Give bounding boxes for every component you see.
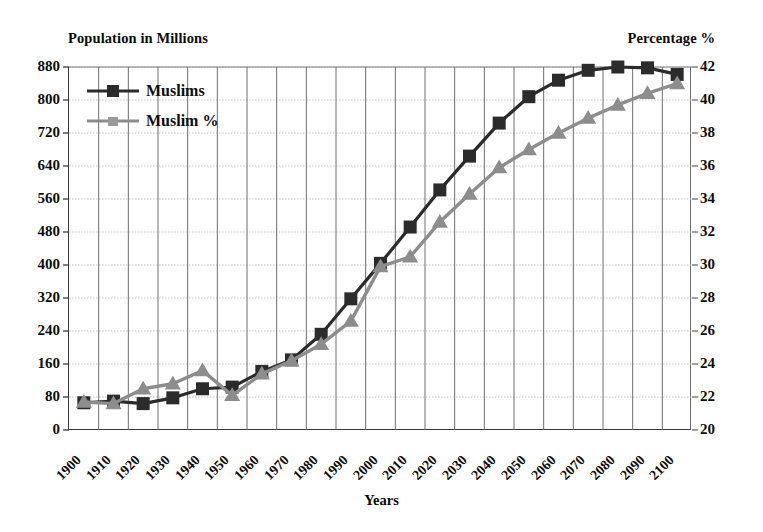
left-axis-tick-label: 480 [14, 224, 60, 239]
data-point-square [137, 397, 150, 410]
x-axis-tick-label: 2040 [468, 452, 499, 483]
left-axis-title: Population in Millions [68, 30, 208, 47]
x-axis-tick-label: 2010 [379, 452, 410, 483]
left-axis-tick-label: 640 [14, 158, 60, 173]
x-axis-tick-label: 2020 [409, 452, 440, 483]
data-point-square [463, 150, 476, 163]
x-axis-tick-label: 1920 [112, 452, 143, 483]
x-axis-tick-label: 1940 [172, 452, 203, 483]
data-point-square [196, 382, 209, 395]
legend-label-muslim-percent: Muslim % [146, 112, 218, 130]
right-axis-tick-label: 32 [700, 224, 746, 239]
right-axis-tick-label: 26 [700, 323, 746, 338]
data-point-square [166, 391, 179, 404]
chart-legend: Muslims Muslim % [86, 76, 266, 136]
x-axis-tick-label: 2070 [557, 452, 588, 483]
legend-marker-square-icon [86, 83, 140, 99]
data-point-square [344, 292, 357, 305]
data-point-square [582, 64, 595, 77]
right-axis-title: Percentage % [628, 30, 716, 47]
right-axis-tick-label: 40 [700, 92, 746, 107]
left-axis-tick-label: 800 [14, 92, 60, 107]
left-axis-tick-label: 720 [14, 125, 60, 140]
left-axis-tick-label: 160 [14, 356, 60, 371]
data-point-triangle [343, 313, 359, 327]
left-axis-tick-labels: 080160240320400480560640720800880 [10, 67, 60, 430]
x-axis-tick-label: 1990 [320, 452, 351, 483]
x-axis-tick-label: 1950 [201, 452, 232, 483]
right-axis-tick-labels: 202224262830323436384042 [700, 67, 752, 430]
x-axis-tick-label: 1910 [83, 452, 114, 483]
right-axis-tick-label: 42 [700, 59, 746, 74]
data-point-square [522, 90, 535, 103]
x-axis-tick-label: 2060 [528, 452, 559, 483]
right-axis-tick-label: 24 [700, 356, 746, 371]
x-axis-tick-label: 2090 [617, 452, 648, 483]
legend-item-muslims: Muslims [86, 76, 266, 106]
left-axis-tick-label: 80 [14, 389, 60, 404]
data-point-triangle [194, 363, 210, 377]
left-axis-tick-label: 880 [14, 59, 60, 74]
x-axis-tick-label: 1980 [290, 452, 321, 483]
right-axis-tick-label: 34 [700, 191, 746, 206]
x-axis-tick-label: 1900 [53, 452, 84, 483]
legend-item-muslim-percent: Muslim % [86, 106, 266, 136]
data-point-triangle [491, 160, 507, 174]
x-axis-tick-label: 1960 [231, 452, 262, 483]
left-axis-tick-label: 560 [14, 191, 60, 206]
right-axis-tick-label: 30 [700, 257, 746, 272]
x-axis-tick-label: 2000 [350, 452, 381, 483]
x-axis-tick-label: 2080 [587, 452, 618, 483]
data-point-square [611, 61, 624, 74]
data-point-square [552, 74, 565, 87]
data-point-square [493, 117, 506, 130]
x-axis-tick-label: 2050 [498, 452, 529, 483]
x-axis-tick-label: 2100 [646, 452, 677, 483]
left-axis-tick-label: 0 [14, 422, 60, 437]
right-axis-tick-label: 28 [700, 290, 746, 305]
chart-container: Population in Millions Percentage % 0801… [0, 0, 763, 532]
data-point-triangle [521, 141, 537, 155]
x-axis-tick-label: 1930 [142, 452, 173, 483]
left-axis-tick-label: 320 [14, 290, 60, 305]
left-axis-tick-label: 240 [14, 323, 60, 338]
legend-marker-triangle-icon [86, 113, 140, 129]
left-axis-tick-label: 400 [14, 257, 60, 272]
x-axis-tick-label: 2030 [439, 452, 470, 483]
data-point-square [433, 183, 446, 196]
right-axis-tick-label: 36 [700, 158, 746, 173]
legend-label-muslims: Muslims [146, 82, 205, 100]
data-point-square [641, 61, 654, 74]
right-axis-tick-label: 22 [700, 389, 746, 404]
right-axis-tick-label: 20 [700, 422, 746, 437]
x-axis-title: Years [0, 492, 763, 509]
right-axis-tick-label: 38 [700, 125, 746, 140]
data-point-square [404, 221, 417, 234]
x-axis-tick-label: 1970 [261, 452, 292, 483]
